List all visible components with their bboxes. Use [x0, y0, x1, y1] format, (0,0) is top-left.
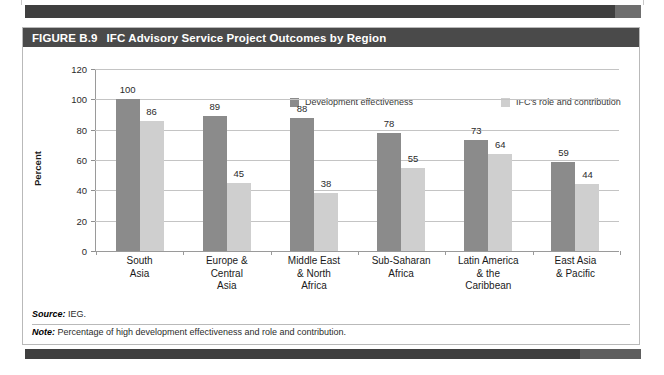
- x-axis-label-line: Caribbean: [445, 280, 532, 293]
- figure-notes: Source: IEG. Note: Percentage of high de…: [23, 302, 639, 344]
- bar-value-label: 38: [321, 178, 332, 189]
- bar-group: 8945: [183, 69, 270, 251]
- figure-title-bar: FIGURE B.9 IFC Advisory Service Project …: [23, 28, 639, 47]
- bar-value-label: 88: [297, 103, 308, 114]
- x-axis-label-line: Sub-Saharan: [358, 255, 445, 268]
- source-line: Source: IEG.: [32, 308, 630, 320]
- x-axis-label-line: Middle East: [270, 255, 357, 268]
- gridline: [95, 251, 619, 252]
- y-axis-title: Percent: [32, 151, 43, 186]
- y-tick-mark: [91, 130, 95, 131]
- x-axis-label: East Asia& Pacific: [532, 255, 619, 293]
- x-axis-label-line: Asia: [96, 268, 183, 281]
- y-tick-mark: [91, 99, 95, 100]
- bar-value-label: 64: [495, 139, 506, 150]
- x-axis-label-line: Latin America: [445, 255, 532, 268]
- bar-pair: 10086: [115, 69, 165, 251]
- x-axis-label: SouthAsia: [96, 255, 183, 293]
- bar-pair: 8945: [202, 69, 252, 251]
- note-text: Percentage of high development effective…: [55, 327, 346, 337]
- x-tick-mark: [620, 251, 621, 255]
- y-tick-label: 100: [71, 94, 87, 105]
- bar-pair: 5944: [550, 69, 600, 251]
- y-tick-label: 0: [82, 246, 87, 257]
- figure-container: FIGURE B.9 IFC Advisory Service Project …: [22, 27, 640, 345]
- y-tick-label: 80: [76, 124, 87, 135]
- bar-ifc-role-and-contribution[interactable]: 64: [488, 154, 512, 251]
- y-tick-mark: [91, 251, 95, 252]
- bar-value-label: 45: [233, 168, 244, 179]
- source-label: Source:: [32, 309, 66, 319]
- x-axis-label: Middle East& NorthAfrica: [270, 255, 357, 293]
- bar-group: 5944: [532, 69, 619, 251]
- bar-group: 7364: [445, 69, 532, 251]
- y-tick-label: 40: [76, 185, 87, 196]
- bar-development-effectiveness[interactable]: 88: [290, 118, 314, 251]
- bar-ifc-role-and-contribution[interactable]: 38: [314, 193, 338, 251]
- bar-value-label: 59: [558, 147, 569, 158]
- x-axis-label-line: Africa: [270, 280, 357, 293]
- x-axis-label-line: South: [96, 255, 183, 268]
- bar-pair: 7364: [463, 69, 513, 251]
- chart-plot-area: Development effectiveness IFC's role and…: [23, 47, 639, 324]
- chart-axes: 020406080100120 100868945883878557364594…: [73, 69, 619, 279]
- bar-development-effectiveness[interactable]: 73: [464, 140, 488, 251]
- x-axis-label-line: Asia: [183, 280, 270, 293]
- y-tick-mark: [91, 221, 95, 222]
- x-axis-label-line: East Asia: [532, 255, 619, 268]
- bar-development-effectiveness[interactable]: 89: [203, 116, 227, 251]
- page-strip-top: [25, 5, 615, 18]
- bar-pair: 8838: [289, 69, 339, 251]
- bar-ifc-role-and-contribution[interactable]: 86: [140, 121, 164, 251]
- bar-value-label: 73: [471, 125, 482, 136]
- note-label: Note:: [32, 327, 55, 337]
- figure-number: FIGURE B.9: [32, 32, 98, 44]
- x-axis-label-line: Africa: [358, 268, 445, 281]
- chart-canvas: 020406080100120 100868945883878557364594…: [95, 69, 619, 251]
- note-line: Note: Percentage of high development eff…: [32, 326, 630, 338]
- bar-value-label: 78: [384, 118, 395, 129]
- bar-value-label: 86: [146, 106, 157, 117]
- x-axis-label-line: & the: [445, 268, 532, 281]
- y-tick-mark: [91, 190, 95, 191]
- page-strip-bottom-tail: [580, 349, 641, 359]
- y-tick-mark: [91, 160, 95, 161]
- y-tick-label: 20: [76, 215, 87, 226]
- bar-groups: 1008689458838785573645944: [96, 69, 619, 251]
- page-strip-top-tail: [615, 5, 641, 18]
- x-axis-label: Europe &CentralAsia: [183, 255, 270, 293]
- x-axis-label-line: & North: [270, 268, 357, 281]
- x-axis-label-line: Central: [183, 268, 270, 281]
- x-axis-label-line: Europe &: [183, 255, 270, 268]
- page-strip-bottom: [25, 349, 580, 359]
- x-axis-label: Sub-SaharanAfrica: [358, 255, 445, 293]
- bar-ifc-role-and-contribution[interactable]: 55: [401, 168, 425, 251]
- bar-pair: 7855: [376, 69, 426, 251]
- bar-value-label: 44: [582, 169, 593, 180]
- bar-group: 8838: [270, 69, 357, 251]
- x-axis-labels: SouthAsiaEurope &CentralAsiaMiddle East&…: [96, 255, 619, 293]
- x-axis-label: Latin America& theCaribbean: [445, 255, 532, 293]
- y-tick-label: 120: [71, 64, 87, 75]
- bar-development-effectiveness[interactable]: 59: [551, 162, 575, 251]
- bar-value-label: 89: [209, 101, 220, 112]
- x-axis-label-line: & Pacific: [532, 268, 619, 281]
- bar-group: 10086: [96, 69, 183, 251]
- y-tick-mark: [91, 69, 95, 70]
- y-tick-label: 60: [76, 155, 87, 166]
- bar-group: 7855: [358, 69, 445, 251]
- bar-ifc-role-and-contribution[interactable]: 45: [227, 183, 251, 251]
- bar-development-effectiveness[interactable]: 100: [116, 99, 140, 251]
- bar-development-effectiveness[interactable]: 78: [377, 133, 401, 251]
- bar-ifc-role-and-contribution[interactable]: 44: [575, 184, 599, 251]
- source-text: IEG.: [66, 309, 87, 319]
- bar-value-label: 55: [408, 153, 419, 164]
- figure-title: IFC Advisory Service Project Outcomes by…: [107, 32, 387, 44]
- bar-value-label: 100: [120, 84, 136, 95]
